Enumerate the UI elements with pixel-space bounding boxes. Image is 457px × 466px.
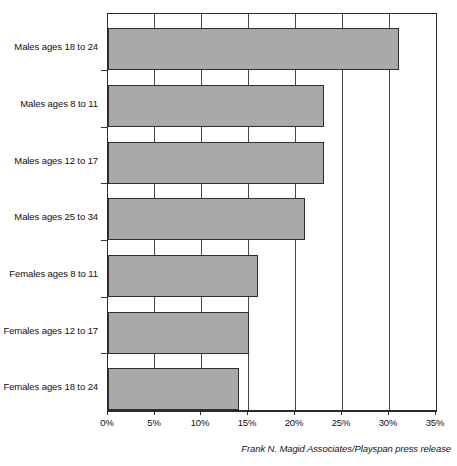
category-label: Males ages 8 to 11 [0,98,98,109]
x-axis-tick [388,410,389,415]
bar-row [108,255,436,297]
x-axis-tick [247,410,248,415]
x-axis-tick-label: 35% [415,417,455,428]
bar-row [108,142,436,184]
bar-males-25-34 [108,198,305,240]
category-label: Females ages 18 to 24 [0,381,98,392]
bar-males-8-11 [108,85,324,127]
category-label: Males ages 12 to 17 [0,155,98,166]
x-axis-tick-label: 25% [321,417,361,428]
category-label: Males ages 25 to 34 [0,211,98,222]
x-axis-tick [200,410,201,415]
bar-males-12-17 [108,142,324,184]
category-label: Males ages 18 to 24 [0,41,98,52]
bar-row [108,312,436,354]
x-axis-tick [107,410,108,415]
category-label: Females ages 12 to 17 [0,325,98,336]
x-axis-tick-label: 10% [180,417,220,428]
x-axis-tick-label: 20% [274,417,314,428]
category-axis-labels: Males ages 18 to 24 Males ages 8 to 11 M… [0,13,102,410]
x-axis-tick-label: 30% [368,417,408,428]
source-note: Frank N. Magid Associates/Playspan press… [241,443,451,454]
category-label: Females ages 8 to 11 [0,268,98,279]
x-axis-tick [435,410,436,415]
plot-area [107,13,437,412]
x-axis-tick [294,410,295,415]
bar-females-18-24 [108,368,239,410]
bar-males-18-24 [108,28,399,70]
bar-chart: Males ages 18 to 24 Males ages 8 to 11 M… [0,0,457,466]
bar-row [108,28,436,70]
x-axis-tick [341,410,342,415]
bar-row [108,368,436,410]
bar-females-8-11 [108,255,258,297]
x-axis-tick [154,410,155,415]
x-axis-tick-label: 0% [87,417,127,428]
bar-row [108,85,436,127]
bar-females-12-17 [108,312,249,354]
bar-row [108,198,436,240]
x-axis-tick-label: 5% [134,417,174,428]
x-axis-tick-label: 15% [227,417,267,428]
